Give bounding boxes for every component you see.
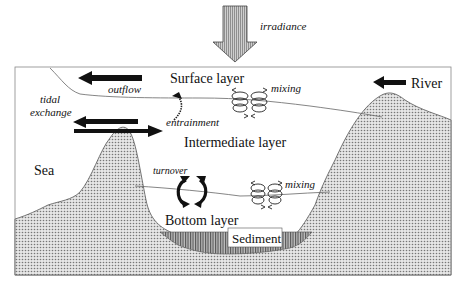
mixing-label-lower: mixing bbox=[285, 178, 315, 190]
bottom-layer-label: Bottom layer bbox=[165, 213, 239, 228]
entrainment-label: entrainment bbox=[166, 116, 220, 128]
estuary-diagram: irradiance Surface layer River outflow t… bbox=[0, 0, 466, 296]
turnover-label: turnover bbox=[153, 165, 188, 176]
irradiance-arrow-icon bbox=[213, 6, 257, 62]
surface-layer-label: Surface layer bbox=[170, 71, 245, 86]
sea-label: Sea bbox=[34, 163, 55, 178]
outflow-label: outflow bbox=[108, 83, 142, 95]
sediment-label: Sediment bbox=[232, 231, 281, 246]
irradiance-label: irradiance bbox=[260, 20, 307, 32]
tidal-exchange-label-1: tidal bbox=[40, 93, 60, 105]
tidal-exchange-label-2: exchange bbox=[30, 106, 72, 118]
river-label: River bbox=[411, 76, 442, 91]
intermediate-layer-label: Intermediate layer bbox=[184, 135, 287, 150]
mixing-label-upper: mixing bbox=[271, 82, 301, 94]
